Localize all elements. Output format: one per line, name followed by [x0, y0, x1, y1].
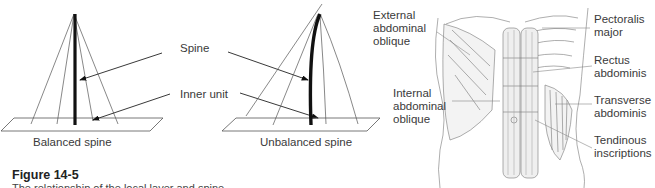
rib-line: [525, 16, 578, 22]
unbalanced-spine-label: Unbalanced spine: [260, 136, 352, 149]
guy-wire: [31, 14, 74, 124]
guy-wire: [74, 14, 118, 124]
unbalanced-base-plane: [222, 118, 380, 131]
balanced-spine-diagram: [1, 14, 163, 131]
guy-wire: [57, 14, 74, 124]
spine-arrow-right: [228, 52, 308, 80]
rectus-right-column: [521, 28, 538, 178]
external-oblique-label: External abdominal oblique: [373, 9, 426, 48]
spine-callout-label: Spine: [180, 42, 209, 55]
transverse-abdominis-label: Transverse abdominis: [594, 94, 651, 120]
internal-oblique-label: Internal abdominal oblique: [393, 87, 446, 126]
abdominal-muscles-illustration: [435, 8, 588, 188]
rib-line: [446, 16, 510, 24]
figure-canvas: [0, 0, 655, 188]
pectoralis-major-label: Pectoralis major: [594, 13, 645, 39]
rectus-abdominis-label: Rectus abdominis: [594, 54, 646, 80]
figure-caption: The relationship of the local layer and …: [12, 182, 227, 188]
unbalanced-spine-diagram: [222, 4, 380, 131]
inner-unit-callout-label: Inner unit: [180, 88, 228, 101]
inner-unit-arrow-left: [93, 94, 170, 120]
rectus-left-column: [503, 28, 520, 178]
rib-line: [535, 66, 570, 68]
transverse-abdominis: [545, 85, 572, 160]
rib-line: [534, 54, 572, 56]
spine-arrow-left: [80, 53, 162, 80]
figure-number: Figure 14-5: [12, 168, 79, 182]
guy-wire: [74, 14, 93, 121]
guy-wire: [320, 16, 326, 124]
balanced-base-plane: [1, 118, 163, 131]
tendinous-inscriptions-label: Tendinous inscriptions: [594, 134, 652, 160]
inner-unit-arrow-right: [240, 93, 318, 118]
balanced-spine-label: Balanced spine: [33, 136, 112, 149]
unbalanced-spine-rod: [310, 14, 320, 125]
torso-outline-right: [576, 8, 588, 188]
guy-wire: [321, 16, 358, 124]
